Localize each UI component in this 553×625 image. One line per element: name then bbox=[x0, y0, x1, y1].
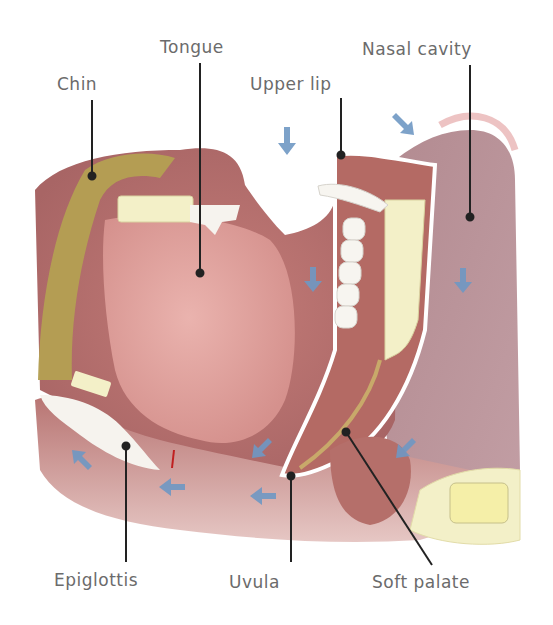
arrow-icon bbox=[278, 127, 296, 155]
jaw-bone bbox=[118, 196, 193, 222]
vertebra-body bbox=[450, 483, 508, 523]
label-tongue: Tongue bbox=[160, 37, 224, 57]
label-upper-lip: Upper lip bbox=[250, 74, 332, 94]
label-chin: Chin bbox=[57, 74, 97, 94]
label-soft-palate: Soft palate bbox=[372, 572, 470, 592]
label-uvula: Uvula bbox=[229, 572, 280, 592]
label-nasal-cavity: Nasal cavity bbox=[362, 39, 472, 59]
arrow-icon bbox=[392, 113, 414, 135]
label-epiglottis: Epiglottis bbox=[54, 570, 138, 590]
anatomy-diagram: Chin Tongue Upper lip Nasal cavity Epigl… bbox=[0, 0, 553, 625]
